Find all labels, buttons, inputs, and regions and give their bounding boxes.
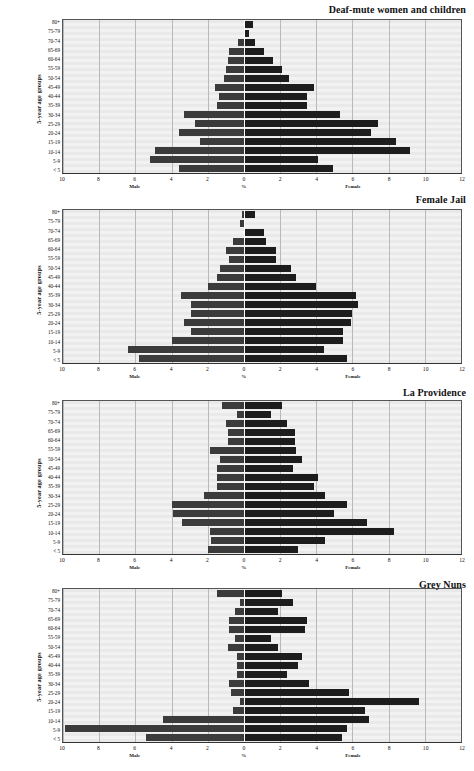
plot-area-2 bbox=[62, 209, 462, 364]
bar-female bbox=[244, 30, 249, 37]
bar-male bbox=[163, 716, 244, 723]
plot-area-4 bbox=[62, 588, 462, 743]
bar-female bbox=[244, 474, 318, 481]
bar-row bbox=[63, 733, 461, 742]
x-caption-percent: % bbox=[241, 374, 246, 379]
bar-male bbox=[211, 537, 244, 544]
bar-row bbox=[63, 598, 461, 607]
bar-female bbox=[244, 447, 296, 454]
bar-female bbox=[244, 66, 282, 73]
bar-female bbox=[244, 75, 289, 82]
bar-row bbox=[63, 336, 461, 345]
bar-row bbox=[63, 318, 461, 327]
bar-female bbox=[244, 301, 358, 308]
bar-male bbox=[208, 283, 244, 290]
bar-rows-1 bbox=[63, 20, 461, 173]
x-tick-3: 4 bbox=[170, 176, 173, 182]
x-tick-3: 4 bbox=[170, 366, 173, 372]
bar-female bbox=[244, 274, 296, 281]
x-tick-7: 4 bbox=[315, 557, 318, 563]
age-group-tick-labels-3: 80+75-7970-7465-6960-6455-5950-5445-4940… bbox=[30, 400, 60, 555]
age-tick-4: 60-64 bbox=[30, 438, 60, 443]
bar-male bbox=[217, 102, 244, 109]
bar-row bbox=[63, 20, 461, 29]
age-tick-15: 5-9 bbox=[30, 159, 60, 164]
bar-female bbox=[244, 310, 353, 317]
bar-male bbox=[179, 129, 244, 136]
age-tick-15: 5-9 bbox=[30, 728, 60, 733]
bar-female bbox=[244, 492, 325, 499]
bar-female bbox=[244, 519, 367, 526]
age-tick-9: 35-39 bbox=[30, 293, 60, 298]
bar-female bbox=[244, 57, 273, 64]
x-tick-11: 12 bbox=[459, 745, 465, 751]
bar-female bbox=[244, 680, 309, 687]
x-tick-2: 6 bbox=[133, 176, 136, 182]
age-tick-7: 45-49 bbox=[30, 275, 60, 280]
bar-female bbox=[244, 590, 282, 597]
bar-male bbox=[233, 707, 244, 714]
bar-male bbox=[231, 689, 244, 696]
pyramid-panel-3: 5-year age groups 80+75-7970-7465-6960-6… bbox=[0, 383, 474, 575]
bar-female bbox=[244, 438, 295, 445]
x-tick-2: 6 bbox=[133, 557, 136, 563]
bar-female bbox=[244, 165, 333, 172]
pyramid-panel-1: 5-year age groups 80+75-7970-7465-6960-6… bbox=[0, 0, 474, 190]
bar-male bbox=[217, 474, 244, 481]
x-tick-5: 0 bbox=[242, 366, 245, 372]
age-tick-10: 30-34 bbox=[30, 682, 60, 687]
x-caption-female: Female bbox=[345, 753, 361, 758]
x-tick-10: 10 bbox=[423, 557, 429, 563]
x-caption-male: Male bbox=[129, 374, 140, 379]
bar-row bbox=[63, 401, 461, 410]
age-group-tick-labels-1: 80+75-7970-7465-6960-6455-5950-5445-4940… bbox=[30, 19, 60, 174]
bar-male bbox=[229, 256, 243, 263]
bar-female bbox=[244, 716, 369, 723]
bar-row bbox=[63, 210, 461, 219]
panel-title-1: Deaf-mute women and children bbox=[329, 4, 466, 15]
bar-male bbox=[233, 238, 244, 245]
x-axis-captions-4: Male%Female bbox=[62, 753, 462, 761]
bar-row bbox=[63, 219, 461, 228]
bar-female bbox=[244, 411, 271, 418]
age-tick-9: 35-39 bbox=[30, 103, 60, 108]
x-tick-3: 4 bbox=[170, 745, 173, 751]
bar-male bbox=[208, 546, 244, 553]
bar-female bbox=[244, 635, 271, 642]
bar-female bbox=[244, 120, 378, 127]
age-tick-11: 25-29 bbox=[30, 122, 60, 127]
bar-row bbox=[63, 607, 461, 616]
x-tick-7: 4 bbox=[315, 745, 318, 751]
age-tick-5: 55-59 bbox=[30, 256, 60, 261]
bar-row bbox=[63, 146, 461, 155]
age-tick-3: 65-69 bbox=[30, 429, 60, 434]
bar-female bbox=[244, 102, 307, 109]
x-caption-percent: % bbox=[241, 184, 246, 189]
bar-row bbox=[63, 29, 461, 38]
bar-female bbox=[244, 247, 277, 254]
age-tick-6: 50-54 bbox=[30, 266, 60, 271]
bar-row bbox=[63, 65, 461, 74]
bar-female bbox=[244, 39, 255, 46]
bar-male bbox=[235, 608, 244, 615]
age-tick-5: 55-59 bbox=[30, 635, 60, 640]
bar-male bbox=[224, 75, 244, 82]
bar-row bbox=[63, 545, 461, 554]
bar-row bbox=[63, 228, 461, 237]
bar-male bbox=[228, 644, 244, 651]
age-tick-2: 70-74 bbox=[30, 39, 60, 44]
bar-female bbox=[244, 456, 302, 463]
age-tick-2: 70-74 bbox=[30, 420, 60, 425]
bar-male bbox=[217, 483, 244, 490]
bar-male bbox=[228, 438, 244, 445]
panel-title-3: La Providence bbox=[403, 387, 466, 398]
plot-area-3 bbox=[62, 400, 462, 555]
age-tick-6: 50-54 bbox=[30, 645, 60, 650]
age-tick-11: 25-29 bbox=[30, 312, 60, 317]
bar-female bbox=[244, 147, 410, 154]
age-tick-7: 45-49 bbox=[30, 654, 60, 659]
bar-female bbox=[244, 156, 318, 163]
age-tick-3: 65-69 bbox=[30, 48, 60, 53]
age-group-tick-labels-2: 80+75-7970-7465-6960-6455-5950-5445-4940… bbox=[30, 209, 60, 364]
age-tick-13: 15-19 bbox=[30, 330, 60, 335]
